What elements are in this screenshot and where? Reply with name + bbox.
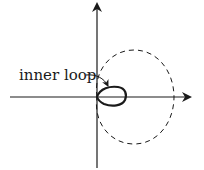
polar-diagram: inner loop (0, 0, 204, 170)
solid-inner-loop (97, 87, 126, 106)
inner-loop-label: inner loop (19, 66, 96, 84)
